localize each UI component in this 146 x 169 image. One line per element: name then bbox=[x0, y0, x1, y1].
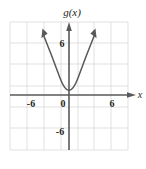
graph-screenshot: g(x) x -6 0 6 6 -6 bbox=[0, 0, 146, 169]
x-axis-arrow-icon bbox=[127, 92, 136, 98]
y-tick-label-neg6: -6 bbox=[56, 126, 64, 137]
coordinate-plane-figure: g(x) x -6 0 6 6 -6 bbox=[0, 0, 146, 169]
x-tick-label-neg6: -6 bbox=[27, 98, 35, 109]
x-tick-label-zero: 0 bbox=[61, 98, 66, 109]
function-label: g(x) bbox=[63, 6, 81, 19]
x-tick-label-pos6: 6 bbox=[110, 98, 115, 109]
y-tick-label-pos6: 6 bbox=[60, 38, 65, 49]
x-axis-label: x bbox=[137, 89, 143, 100]
